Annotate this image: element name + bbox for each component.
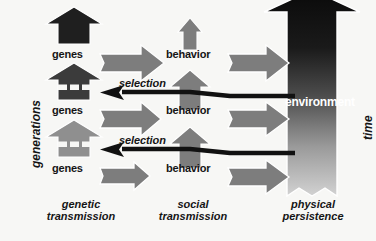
node-label-behavior-gen1: behavior: [166, 49, 210, 60]
behavior-to-environment-arrow-gen1: [228, 45, 289, 81]
node-label-genes-gen2: genes: [52, 105, 83, 116]
genes-to-behavior-arrow-gen1: [100, 45, 164, 81]
node-label-behavior-gen2: behavior: [166, 105, 210, 116]
genes-arrow-gen3: [46, 120, 102, 157]
genes-to-behavior-arrow-gen3: [100, 162, 150, 190]
node-label-behavior-gen3: behavior: [166, 163, 210, 174]
column-label-social-transmission: social transmission: [138, 198, 248, 223]
behavior-to-environment-arrow-gen3: [228, 160, 289, 194]
column-label-physical-persistence: physical persistence: [258, 198, 368, 223]
node-label-genes-gen1: genes: [52, 49, 83, 60]
axis-label-time: time: [362, 115, 374, 140]
node-label-genes-gen3: genes: [52, 163, 83, 174]
edge-label-selection-gen3: selection: [119, 135, 166, 146]
genes-arrow-gen2: [46, 63, 102, 100]
diagram-canvas: genes genes genes behavior behavior beha…: [0, 0, 376, 241]
behavior-top-arrow: [178, 18, 202, 50]
axis-label-generations: generations: [30, 100, 42, 168]
column-label-genetic-transmission: genetic transmission: [26, 198, 136, 223]
behavior-to-environment-arrow-gen2: [228, 102, 289, 136]
edge-label-selection-gen2: selection: [119, 78, 166, 89]
genes-to-behavior-arrow-gen2: [100, 102, 161, 136]
node-label-environment: environment: [285, 96, 355, 108]
genes-arrow-gen1: [46, 7, 102, 44]
